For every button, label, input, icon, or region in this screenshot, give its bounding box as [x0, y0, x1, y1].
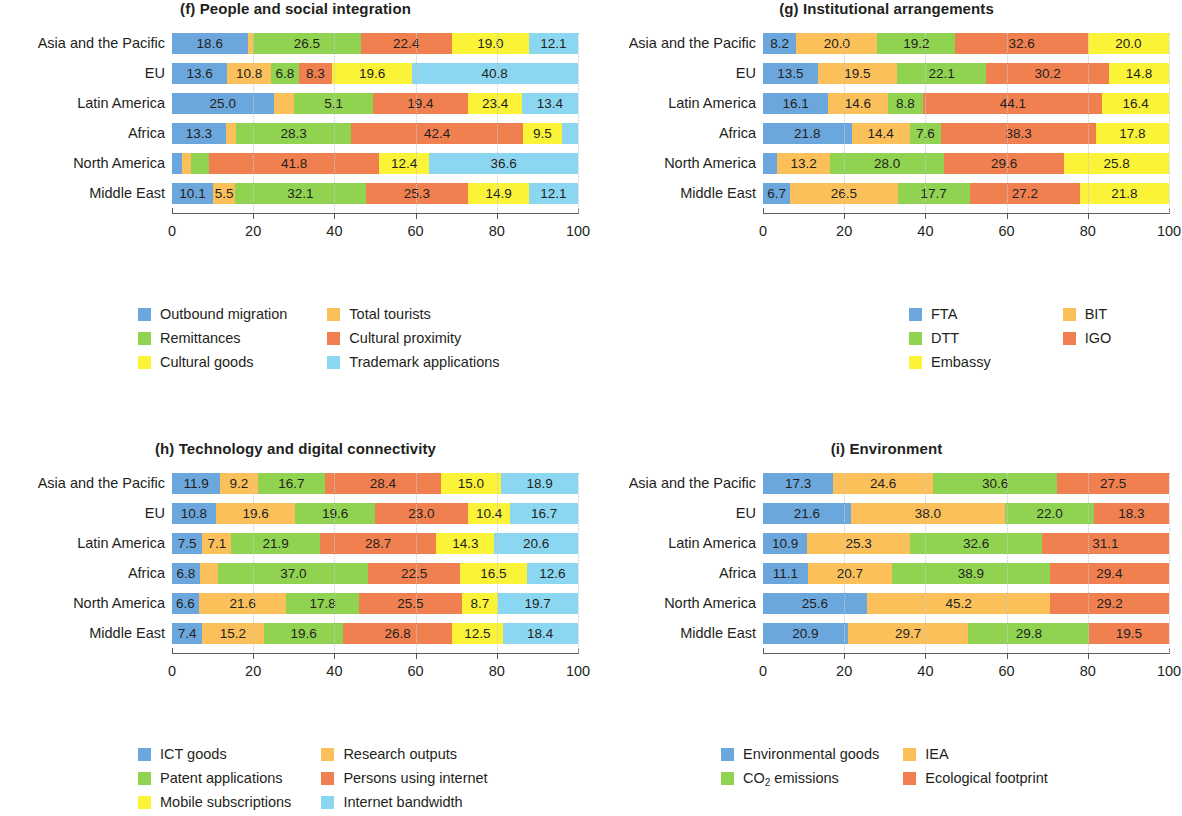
gridlines — [0, 33, 591, 204]
row-label-latin-america: Latin America — [591, 536, 763, 551]
legend-swatch-icon — [327, 356, 340, 369]
legend-column: Research outputsPersons using internetIn… — [321, 742, 487, 814]
legend-item[interactable]: Persons using internet — [321, 766, 487, 790]
axis-tick-label: 80 — [489, 223, 505, 239]
legend-item[interactable]: Environmental goods — [721, 742, 879, 766]
bar-segment: 14.6 — [828, 93, 887, 114]
legend-item[interactable]: Remittances — [138, 326, 287, 350]
axis-line — [172, 213, 578, 214]
segment-value: 12.1 — [540, 37, 566, 51]
bar-row: Asia and the Pacific18.626.522.419.012.1 — [0, 33, 591, 54]
bar-segment: 12.1 — [529, 33, 578, 54]
bar-segment: 12.5 — [452, 623, 503, 644]
stacked-bar: 13.519.522.130.214.8 — [763, 63, 1169, 84]
bar-segment: 14.9 — [468, 183, 528, 204]
row-label-middle-east: Middle East — [591, 186, 763, 201]
row-label-eu: EU — [0, 66, 172, 81]
bar-segment — [763, 153, 777, 174]
segment-value: 29.8 — [1016, 627, 1042, 641]
bar-segment: 22.0 — [1005, 503, 1094, 524]
axis-tick-label: 80 — [489, 663, 505, 679]
gridlines — [591, 473, 1182, 644]
bar-segment: 41.8 — [209, 153, 379, 174]
bar-segment: 40.8 — [412, 63, 578, 84]
axis-tick-label: 20 — [836, 663, 852, 679]
stacked-bar: 41.812.436.6 — [172, 153, 578, 174]
axis-tick — [1169, 208, 1170, 214]
segment-value: 12.5 — [464, 627, 490, 641]
segment-value: 11.9 — [183, 477, 208, 491]
bar-row: North America13.228.029.625.8 — [591, 153, 1182, 174]
legend-item[interactable]: Total tourists — [327, 302, 499, 326]
bar-rows: Asia and the Pacific17.324.630.627.5EU21… — [591, 473, 1182, 644]
bar-row: Middle East7.415.219.626.812.518.4 — [0, 623, 591, 644]
segment-value: 21.6 — [794, 507, 820, 521]
legend-item[interactable]: Internet bandwidth — [321, 790, 487, 814]
stacked-bar: 25.645.229.2 — [763, 593, 1169, 614]
bar-segment: 24.6 — [833, 473, 933, 494]
segment-value: 38.0 — [915, 507, 941, 521]
legend-item[interactable]: Cultural proximity — [327, 326, 499, 350]
segment-value: 15.0 — [458, 477, 484, 491]
bar-segment: 8.3 — [299, 63, 333, 84]
bar-segment — [200, 563, 219, 584]
panel-h: (h) Technology and digital connectivity … — [0, 440, 591, 687]
segment-value: 15.2 — [220, 627, 246, 641]
bar-segment: 16.5 — [460, 563, 527, 584]
segment-value: 18.9 — [527, 477, 553, 491]
legend-item[interactable]: Mobile subscriptions — [138, 790, 291, 814]
segment-value: 45.2 — [946, 597, 972, 611]
axis-tick-label: 100 — [1157, 663, 1181, 679]
axis-tick-label: 100 — [566, 663, 590, 679]
legend-label: Persons using internet — [343, 770, 487, 786]
legend-item[interactable]: DTT — [909, 326, 991, 350]
legend-item[interactable]: FTA — [909, 302, 991, 326]
segment-value: 25.5 — [397, 597, 423, 611]
legend-item[interactable]: Research outputs — [321, 742, 487, 766]
legend-item[interactable]: Cultural goods — [138, 350, 287, 374]
axis-tick-label: 60 — [408, 223, 424, 239]
segment-value: 14.4 — [868, 127, 894, 141]
legend-swatch-icon — [138, 308, 151, 321]
bar-segment: 9.2 — [220, 473, 257, 494]
bar-row: North America25.645.229.2 — [591, 593, 1182, 614]
panel-i: (i) Environment Asia and the Pacific17.3… — [591, 440, 1182, 687]
bar-segment: 29.4 — [1050, 563, 1169, 584]
panel-g: (g) Institutional arrangements Asia and … — [591, 0, 1182, 247]
segment-value: 36.6 — [491, 157, 517, 171]
axis-tick — [172, 208, 173, 214]
legend-column: Outbound migrationRemittancesCultural go… — [138, 302, 287, 374]
legend-item[interactable]: BIT — [1063, 302, 1112, 326]
segment-value: 5.1 — [324, 97, 343, 111]
bar-segment: 13.6 — [172, 63, 227, 84]
legend-item[interactable]: Embassy — [909, 350, 991, 374]
stacked-bar: 10.15.532.125.314.912.1 — [172, 183, 578, 204]
segment-value: 19.5 — [844, 67, 870, 81]
bar-segment: 20.7 — [808, 563, 892, 584]
axis-tick — [497, 653, 498, 659]
bar-row: Middle East20.929.729.819.5 — [591, 623, 1182, 644]
segment-value: 10.1 — [179, 187, 205, 201]
panel-f-title: (f) People and social integration — [0, 0, 591, 17]
panel-g-plot: Asia and the Pacific8.220.019.232.620.0E… — [591, 33, 1182, 247]
stacked-bar: 7.57.121.928.714.320.6 — [172, 533, 578, 554]
bar-segment: 7.6 — [910, 123, 941, 144]
bar-row: Africa6.837.022.516.512.6 — [0, 563, 591, 584]
segment-value: 19.2 — [903, 37, 929, 51]
legend-item[interactable]: Trademark applications — [327, 350, 499, 374]
segment-value: 32.6 — [1008, 37, 1034, 51]
segment-value: 40.8 — [482, 67, 508, 81]
bar-segment: 25.3 — [807, 533, 910, 554]
segment-value: 29.2 — [1097, 597, 1123, 611]
legend-item[interactable]: IGO — [1063, 326, 1112, 350]
legend-item[interactable]: Patent applications — [138, 766, 291, 790]
legend-item[interactable]: IEA — [903, 742, 1048, 766]
legend-item[interactable]: Ecological footprint — [903, 766, 1048, 790]
legend-item[interactable]: CO2 emissions — [721, 766, 879, 790]
x-axis: 020406080100 — [763, 213, 1169, 247]
legend-item[interactable]: ICT goods — [138, 742, 291, 766]
legend-swatch-icon — [321, 796, 334, 809]
bar-segment: 21.8 — [1080, 183, 1169, 204]
segment-value: 10.4 — [476, 507, 502, 521]
legend-item[interactable]: Outbound migration — [138, 302, 287, 326]
